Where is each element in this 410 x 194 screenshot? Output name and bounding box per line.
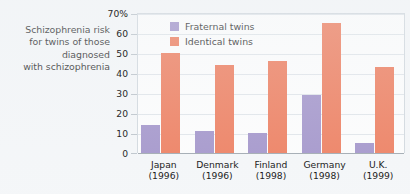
bar-group [299, 14, 353, 153]
y-axis-label-60: 60 [82, 28, 128, 39]
legend-swatch-identical-icon [170, 37, 179, 46]
bar-fraternal [195, 131, 214, 153]
y-tick-mark-0 [131, 153, 137, 154]
legend-label-identical: Identical twins [185, 36, 253, 47]
bar-fraternal [355, 143, 374, 153]
legend-item-fraternal: Fraternal twins [170, 19, 255, 33]
y-axis-label-20: 20 [82, 108, 128, 119]
chart-figure: Schizophrenia risk for twins of those di… [0, 0, 410, 194]
legend-swatch-fraternal-icon [170, 22, 179, 31]
bar-identical [322, 23, 341, 153]
bar-fraternal [302, 95, 321, 153]
y-tick-mark-30 [131, 94, 137, 95]
y-tick-mark-50 [131, 54, 137, 55]
y-axis-label-10: 10 [82, 128, 128, 139]
y-tick-mark-20 [131, 114, 137, 115]
bar-fraternal [141, 125, 160, 153]
chart-legend: Fraternal twins Identical twins [170, 19, 255, 49]
y-axis-label-50: 50 [82, 48, 128, 59]
x-axis-country: U.K. [343, 159, 410, 170]
y-axis-label-30: 30 [82, 88, 128, 99]
x-axis-year: (1999) [343, 170, 410, 181]
y-tick-mark-40 [131, 74, 137, 75]
y-axis-label-40: 40 [82, 68, 128, 79]
y-tick-mark-60 [131, 34, 137, 35]
y-axis-label-70: 70% [82, 8, 128, 19]
legend-item-identical: Identical twins [170, 34, 255, 48]
bar-fraternal [248, 133, 267, 153]
bar-identical [215, 65, 234, 153]
bar-identical [268, 61, 287, 153]
bar-group [352, 14, 406, 153]
x-axis-label: U.K.(1999) [343, 159, 410, 182]
bar-identical [375, 67, 394, 153]
y-tick-mark-70 [131, 14, 137, 15]
gridline-0 [138, 153, 404, 154]
y-axis-label-0: 0 [82, 148, 128, 159]
y-tick-mark-10 [131, 134, 137, 135]
legend-label-fraternal: Fraternal twins [185, 21, 255, 32]
bar-identical [161, 53, 180, 153]
